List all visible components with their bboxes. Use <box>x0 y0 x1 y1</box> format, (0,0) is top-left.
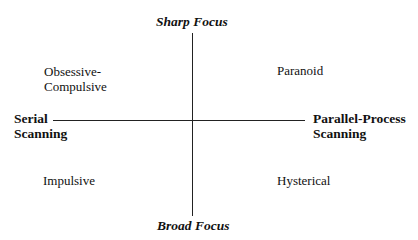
axis-label-parallel-process-scanning: Parallel-Process Scanning <box>313 111 406 141</box>
axis-label-sharp-focus: Sharp Focus <box>156 14 228 29</box>
quadrant-impulsive: Impulsive <box>43 173 95 188</box>
vertical-axis-line <box>192 33 193 216</box>
axis-label-serial-scanning: Serial Scanning <box>14 111 67 141</box>
quadrant-paranoid: Paranoid <box>277 63 323 78</box>
axis-label-broad-focus: Broad Focus <box>157 218 229 233</box>
axis-label-parallel-line2: Scanning <box>313 126 406 141</box>
axis-label-parallel-line1: Parallel-Process <box>313 111 406 126</box>
quadrant-top-left-line1: Obsessive- <box>44 64 107 79</box>
quadrant-obsessive-compulsive: Obsessive- Compulsive <box>44 64 107 94</box>
quadrant-top-left-line2: Compulsive <box>44 79 107 94</box>
axis-label-serial-line1: Serial <box>14 111 67 126</box>
quadrant-hysterical: Hysterical <box>277 173 330 188</box>
horizontal-axis-line <box>53 120 305 121</box>
axis-label-serial-line2: Scanning <box>14 126 67 141</box>
